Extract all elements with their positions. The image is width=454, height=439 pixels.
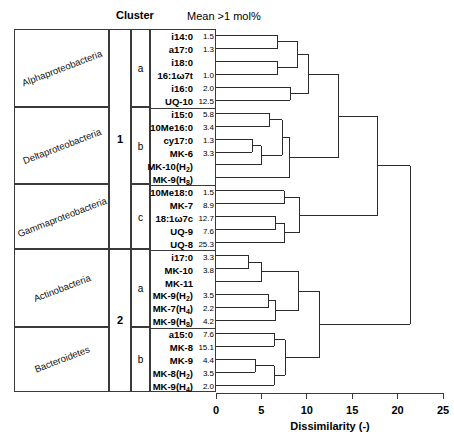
axis-tick-label: 5: [258, 404, 264, 416]
axis-tick-label: 25: [437, 404, 449, 416]
axis-line: [0, 392, 454, 406]
dendrogram-figure: Cluster Mean >1 mol% Alphaproteobacteria…: [0, 0, 454, 439]
axis-tick-label: 15: [346, 404, 358, 416]
x-axis: 0510152025 Dissimilarity (-): [0, 392, 454, 439]
axis-tick-label: 20: [391, 404, 403, 416]
axis-tick-label: 0: [213, 404, 219, 416]
axis-tick-label: 10: [301, 404, 313, 416]
axis-title: Dissimilarity (-): [290, 420, 369, 432]
dendrogram-tree: [0, 0, 454, 439]
